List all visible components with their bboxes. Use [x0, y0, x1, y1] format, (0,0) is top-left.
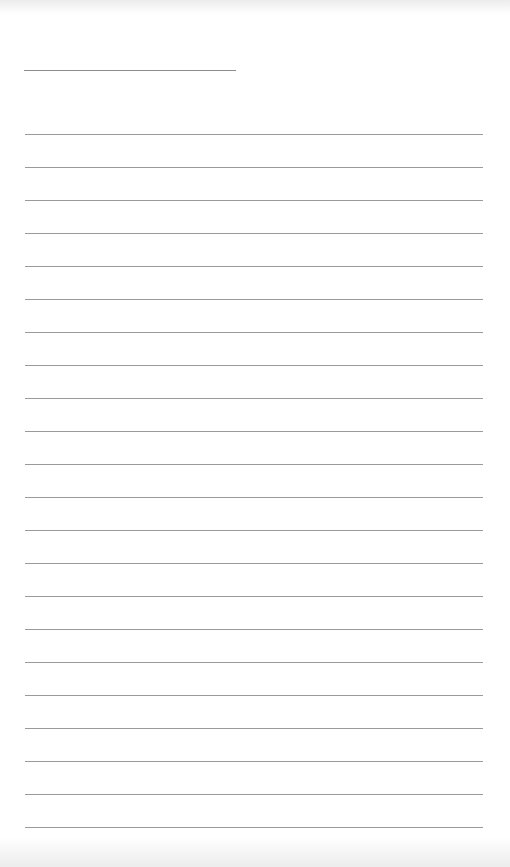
ruled-line: [25, 134, 483, 135]
ruled-line: [25, 266, 483, 267]
page-bottom-shadow: [0, 837, 510, 867]
ruled-line: [25, 497, 483, 498]
ruled-line: [25, 695, 483, 696]
ruled-line: [25, 794, 483, 795]
ruled-line: [25, 563, 483, 564]
ruled-line: [25, 365, 483, 366]
ruled-line: [25, 827, 483, 828]
ruled-line: [25, 332, 483, 333]
ruled-line: [25, 662, 483, 663]
ruled-line: [25, 167, 483, 168]
ruled-line: [25, 761, 483, 762]
ruled-line: [25, 431, 483, 432]
ruled-lines-area: [0, 0, 510, 867]
ruled-line: [25, 464, 483, 465]
ruled-line: [25, 233, 483, 234]
ruled-line: [25, 530, 483, 531]
ruled-line: [25, 596, 483, 597]
ruled-line: [25, 629, 483, 630]
ruled-line: [25, 299, 483, 300]
ruled-line: [25, 398, 483, 399]
ruled-line: [25, 200, 483, 201]
ruled-line: [25, 728, 483, 729]
